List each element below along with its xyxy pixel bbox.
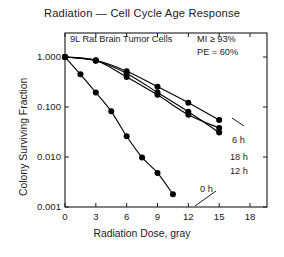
series-label-0h: 0 h xyxy=(200,184,213,194)
series-label-6h: 6 h xyxy=(232,135,245,145)
chart-figure: Radiation — Cell Cycle Age Response 9L R… xyxy=(0,0,284,257)
series-6-h xyxy=(62,54,222,123)
plot-area xyxy=(0,0,284,257)
data-point xyxy=(108,108,114,114)
data-point xyxy=(170,191,176,197)
data-point xyxy=(124,74,130,80)
series-label-18h: 18 h xyxy=(230,152,248,162)
data-point xyxy=(216,125,222,131)
data-point xyxy=(93,58,99,64)
data-point xyxy=(185,112,191,118)
data-point xyxy=(77,71,83,77)
series-line xyxy=(65,57,219,132)
data-point xyxy=(139,154,145,160)
data-point xyxy=(124,133,130,139)
leader-line-18h xyxy=(232,118,244,126)
data-point xyxy=(155,170,161,176)
series-label-12h: 12 h xyxy=(230,166,248,176)
series-18-h xyxy=(62,54,222,131)
data-point xyxy=(62,54,68,60)
series-12-h xyxy=(62,54,222,135)
data-point xyxy=(216,117,222,123)
data-point xyxy=(155,92,161,98)
series-0-h xyxy=(62,54,176,197)
data-point xyxy=(93,90,99,96)
data-point xyxy=(185,100,191,106)
data-point xyxy=(155,84,161,90)
data-series-group xyxy=(62,54,222,197)
series-line xyxy=(65,57,219,120)
